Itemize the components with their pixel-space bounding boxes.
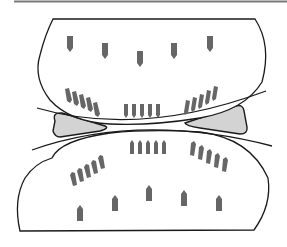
contact-diagram xyxy=(0,0,287,247)
diagram-svg xyxy=(0,0,287,247)
bottom-body xyxy=(17,131,268,231)
